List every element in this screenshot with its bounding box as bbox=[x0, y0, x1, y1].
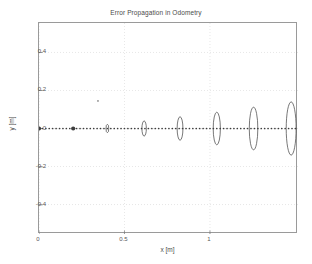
y-tick-label: -0.2 bbox=[36, 163, 46, 169]
x-tick-label: 0.5 bbox=[119, 236, 127, 242]
plot-canvas bbox=[39, 23, 298, 234]
y-axis-label: y [m] bbox=[8, 104, 15, 144]
y-tick-label: 0.4 bbox=[38, 48, 46, 54]
x-axis-label: x [m] bbox=[38, 246, 297, 253]
chart-title: Error Propagation in Odometry bbox=[0, 9, 312, 16]
y-tick-label: 0 bbox=[43, 125, 46, 131]
x-tick-label: 1 bbox=[207, 236, 210, 242]
markers bbox=[39, 100, 99, 131]
x-tick-label: 0 bbox=[36, 236, 39, 242]
y-tick-label: 0.2 bbox=[38, 86, 46, 92]
trajectory-path bbox=[39, 128, 296, 130]
plot-area bbox=[38, 22, 297, 233]
y-tick-label: -0.4 bbox=[36, 201, 46, 207]
chart-figure: Error Propagation in Odometry 00.51 0.40… bbox=[0, 0, 312, 264]
